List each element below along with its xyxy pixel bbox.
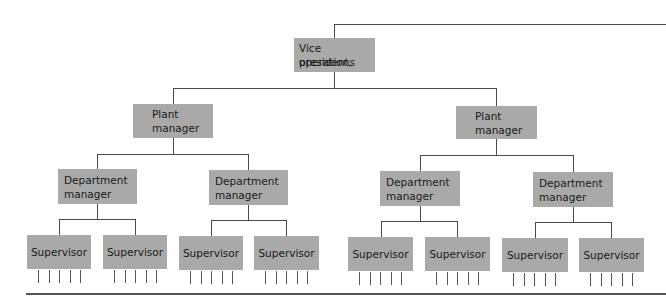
- connector-sup6-drop: [457, 221, 458, 237]
- report-line: [211, 271, 212, 284]
- connector-top-vertical: [334, 24, 335, 38]
- report-line: [307, 271, 308, 284]
- connector-plant-left-stem: [173, 138, 174, 154]
- report-line: [524, 273, 525, 286]
- dept-l1-label-line2: manager: [64, 187, 111, 201]
- connector-sup1-drop: [59, 219, 60, 235]
- dept-manager-box-l2: Department manager: [209, 170, 288, 205]
- report-line: [201, 271, 202, 284]
- supervisor-box-3: Supervisor: [179, 236, 243, 270]
- connector-sup5-drop: [381, 221, 382, 237]
- supervisor-label: Supervisor: [107, 245, 163, 259]
- connector-dept-r1-drop: [420, 155, 421, 171]
- report-line: [146, 270, 147, 283]
- vp-operations-box: Vice president, operations: [294, 38, 375, 72]
- connector-dept-r1-horizontal: [381, 221, 458, 222]
- report-line: [478, 272, 479, 285]
- report-line: [276, 271, 277, 284]
- dept-l1-label-line1: Department: [64, 173, 128, 187]
- connector-dept-l1-stem: [97, 204, 98, 219]
- supervisor-label: Supervisor: [352, 247, 408, 261]
- plant-left-label-line1: Plant: [152, 107, 178, 121]
- report-line: [59, 270, 60, 283]
- report-line: [135, 270, 136, 283]
- plant-right-label-line1: Plant: [475, 109, 501, 123]
- bottom-rule: [26, 293, 666, 295]
- report-line: [232, 271, 233, 284]
- connector-sup3-drop: [211, 220, 212, 236]
- dept-manager-box-r2: Department manager: [533, 172, 613, 207]
- connector-sup2-drop: [135, 219, 136, 235]
- dept-l2-label-line2: manager: [215, 188, 262, 202]
- connector-plant-left-horizontal: [97, 154, 249, 155]
- report-line: [545, 273, 546, 286]
- report-line: [38, 270, 39, 283]
- connector-dept-r2-horizontal: [535, 222, 612, 223]
- connector-dept-l1-drop: [97, 154, 98, 169]
- plant-manager-box-left: Plant manager: [133, 104, 213, 138]
- report-line: [590, 273, 591, 286]
- connector-vp-stem: [334, 72, 335, 88]
- supervisor-label: Supervisor: [583, 248, 639, 262]
- connector-sup8-drop: [611, 222, 612, 238]
- dept-r2-label-line1: Department: [539, 176, 603, 190]
- supervisor-box-6: Supervisor: [425, 237, 490, 271]
- supervisor-box-5: Supervisor: [348, 237, 413, 271]
- report-line: [391, 272, 392, 285]
- plant-left-label-line2: manager: [152, 121, 199, 135]
- report-line: [632, 273, 633, 286]
- report-line: [555, 273, 556, 286]
- report-line: [190, 271, 191, 284]
- connector-sup4-drop: [286, 220, 287, 236]
- connector-dept-l1-horizontal: [59, 219, 136, 220]
- vp-label-line2: operations: [299, 55, 355, 69]
- connector-dept-r2-drop: [573, 155, 574, 172]
- connector-dept-r2-stem: [573, 207, 574, 222]
- connector-dept-l2-horizontal: [211, 220, 287, 221]
- connector-dept-r1-stem: [420, 206, 421, 221]
- supervisor-label: Supervisor: [507, 248, 563, 262]
- connector-dept-l2-drop: [248, 154, 249, 170]
- report-line: [297, 271, 298, 284]
- report-line: [156, 270, 157, 283]
- connector-top-horizontal: [334, 24, 666, 25]
- report-line: [286, 271, 287, 284]
- report-line: [265, 271, 266, 284]
- report-line: [70, 270, 71, 283]
- connector-plant-right-horizontal: [420, 155, 574, 156]
- connector-vp-horizontal: [173, 88, 497, 89]
- report-line: [125, 270, 126, 283]
- report-line: [622, 273, 623, 286]
- report-line: [49, 270, 50, 283]
- report-line: [447, 272, 448, 285]
- report-line: [534, 273, 535, 286]
- dept-r1-label-line2: manager: [386, 189, 433, 203]
- report-line: [114, 270, 115, 283]
- dept-manager-box-r1: Department manager: [380, 171, 460, 206]
- report-line: [457, 272, 458, 285]
- supervisor-box-7: Supervisor: [502, 238, 568, 272]
- report-line: [380, 272, 381, 285]
- supervisor-box-4: Supervisor: [254, 236, 319, 270]
- dept-l2-label-line1: Department: [215, 174, 279, 188]
- report-line: [370, 272, 371, 285]
- supervisor-label: Supervisor: [31, 245, 87, 259]
- plant-right-label-line2: manager: [475, 123, 522, 137]
- report-line: [401, 272, 402, 285]
- plant-manager-box-right: Plant manager: [456, 106, 537, 139]
- dept-manager-box-l1: Department manager: [58, 169, 137, 204]
- dept-r1-label-line1: Department: [386, 175, 450, 189]
- supervisor-label: Supervisor: [183, 246, 239, 260]
- supervisor-label: Supervisor: [258, 246, 314, 260]
- supervisor-box-8: Supervisor: [579, 238, 644, 272]
- report-line: [80, 270, 81, 283]
- report-line: [468, 272, 469, 285]
- dept-r2-label-line2: manager: [539, 190, 586, 204]
- report-line: [359, 272, 360, 285]
- connector-dept-l2-stem: [248, 205, 249, 220]
- supervisor-label: Supervisor: [429, 247, 485, 261]
- report-line: [222, 271, 223, 284]
- report-line: [513, 273, 514, 286]
- supervisor-box-2: Supervisor: [103, 235, 167, 269]
- report-line: [601, 273, 602, 286]
